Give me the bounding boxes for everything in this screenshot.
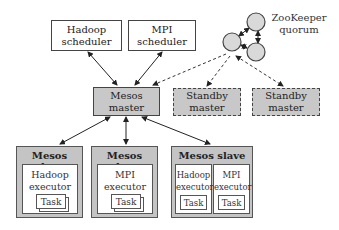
arrow-hadoop-master: [88, 52, 117, 85]
hadoop-scheduler-label-2: scheduler: [62, 36, 112, 48]
task-box: Task: [36, 194, 66, 209]
hadoop-scheduler-label-1: Hadoop: [67, 24, 107, 36]
mesos-master-label-1: Mesos: [110, 90, 142, 102]
zookeeper-label-2: quorum: [270, 24, 328, 36]
zk-link-a-c: [241, 45, 247, 48]
mpi-executor-3: MPI executor Task: [213, 164, 250, 214]
mesos-slave-node-3: Mesos slave Hadoop executor Task MPI exe…: [171, 146, 253, 218]
arrow-mpi-master: [135, 52, 162, 85]
mpi-scheduler-label-1: MPI: [152, 24, 173, 36]
zk-link-a-b: [239, 28, 249, 36]
mesos-slave-3-title: Mesos slave: [172, 150, 252, 161]
zookeeper-node-icon: [247, 43, 265, 61]
mesos-slave-node-1: Mesos slave Hadoop executor Task: [16, 146, 83, 218]
executor-label-1: MPI: [98, 169, 152, 181]
arrow-master-slave3: [142, 117, 210, 144]
executor-label-1: MPI: [214, 169, 249, 181]
executor-label-1: Hadoop: [23, 169, 77, 181]
zookeeper-quorum-label: ZooKeeper quorum: [270, 12, 328, 36]
executor-label-2: executor: [214, 181, 249, 193]
mpi-executor-2: MPI executor Task: [97, 164, 153, 214]
hadoop-scheduler-node: Hadoop scheduler: [51, 20, 122, 51]
hadoop-executor-1: Hadoop executor Task: [22, 164, 78, 214]
standby-master-node-2: Standby master: [252, 88, 320, 116]
executor-label-1: Hadoop: [176, 169, 211, 181]
hadoop-executor-3: Hadoop executor Task: [175, 164, 212, 214]
task-box: Task: [218, 195, 245, 210]
mpi-scheduler-label-2: scheduler: [137, 36, 187, 48]
zookeeper-label-1: ZooKeeper: [270, 12, 328, 24]
zookeeper-node-icon: [247, 13, 265, 31]
executor-label-2: executor: [23, 181, 77, 193]
executor-label-2: executor: [176, 181, 211, 193]
standby-master-2-label-2: master: [268, 102, 303, 114]
standby-master-1-label-1: Standby: [186, 90, 228, 102]
executor-label-2: executor: [98, 181, 152, 193]
mesos-master-node: Mesos master: [93, 87, 160, 116]
mesos-master-label-2: master: [109, 102, 144, 114]
task-box: Task: [111, 194, 141, 209]
standby-master-2-label-1: Standby: [265, 90, 307, 102]
standby-master-1-label-2: master: [189, 102, 224, 114]
zookeeper-node-icon: [223, 33, 241, 51]
zk-to-master-dashed: [153, 54, 226, 85]
arrow-master-slave1: [60, 117, 110, 144]
task-box: Task: [180, 195, 207, 210]
standby-master-node-1: Standby master: [173, 88, 241, 116]
mpi-scheduler-node: MPI scheduler: [128, 20, 196, 51]
mesos-slave-node-2: Mesos slave MPI executor Task: [91, 146, 158, 218]
